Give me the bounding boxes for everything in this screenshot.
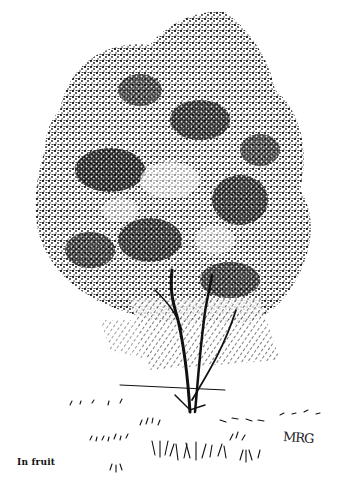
canopy xyxy=(36,12,311,324)
artist-signature: MRG xyxy=(283,429,314,446)
tree-illustration xyxy=(0,0,352,486)
tree-drawing xyxy=(0,0,352,486)
illustration-caption: In fruit xyxy=(17,457,55,467)
